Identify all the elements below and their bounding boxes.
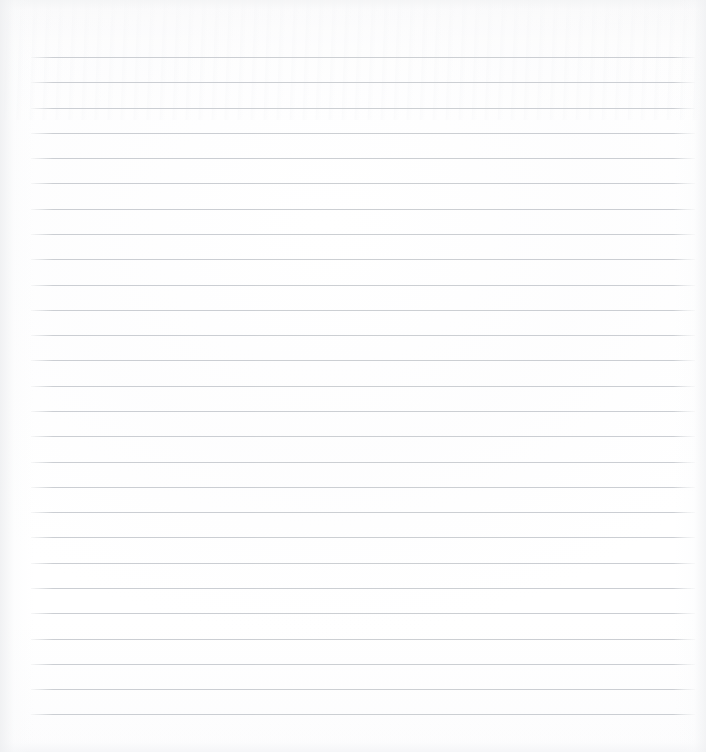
ruled-line xyxy=(31,183,695,184)
ruled-line xyxy=(31,360,695,361)
ruled-line xyxy=(31,537,695,538)
ruled-line xyxy=(31,462,695,463)
ruled-line xyxy=(31,563,695,564)
ruled-line xyxy=(31,689,695,690)
ruled-line xyxy=(31,714,695,715)
ruled-line xyxy=(31,133,695,134)
ruled-line xyxy=(31,234,695,235)
ruled-line xyxy=(31,664,695,665)
ruled-line xyxy=(31,613,695,614)
ruled-line xyxy=(31,411,695,412)
ruled-line xyxy=(31,158,695,159)
ruled-line xyxy=(31,512,695,513)
ruled-line xyxy=(31,487,695,488)
ruled-line xyxy=(31,639,695,640)
ruled-line xyxy=(31,82,695,83)
ruled-line xyxy=(31,436,695,437)
ruled-line xyxy=(31,588,695,589)
ruled-line xyxy=(31,386,695,387)
ruled-line xyxy=(31,285,695,286)
ruled-lines-layer xyxy=(0,0,706,752)
ruled-line xyxy=(31,57,695,58)
ruled-line xyxy=(31,335,695,336)
ruled-paper-page xyxy=(0,0,706,752)
ruled-line xyxy=(31,259,695,260)
ruled-line xyxy=(31,310,695,311)
ruled-line xyxy=(31,209,695,210)
ruled-line xyxy=(31,108,695,109)
